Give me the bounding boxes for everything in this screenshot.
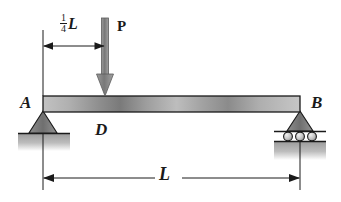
label-support-a: A xyxy=(20,94,31,111)
fraction-denominator: 4 xyxy=(60,24,67,34)
label-force-p: P xyxy=(117,19,126,34)
roller-circle xyxy=(284,132,293,141)
roller-support-triangle xyxy=(287,111,313,131)
fraction-unit-symbol: L xyxy=(68,16,78,32)
beam-diagram-figure: A B D P L 1 4 L xyxy=(0,0,341,202)
span-arrow-left xyxy=(43,174,54,182)
span-arrow-right xyxy=(289,174,300,182)
ground-block-left xyxy=(18,133,70,151)
roller-circle xyxy=(308,132,317,141)
roller-circle xyxy=(296,132,305,141)
beam-diagram-canvas xyxy=(0,0,341,202)
fraction-one-quarter: 1 4 xyxy=(60,13,67,34)
quarter-span-arrow-left xyxy=(43,42,53,50)
pin-support-triangle xyxy=(29,111,57,133)
label-span-l: L xyxy=(159,165,170,183)
label-support-b: B xyxy=(311,94,322,111)
label-quarter-span: 1 4 L xyxy=(60,13,78,34)
label-point-d: D xyxy=(95,121,107,138)
load-arrow-head xyxy=(97,74,114,96)
fraction-numerator: 1 xyxy=(60,13,67,23)
beam-member xyxy=(43,96,300,112)
